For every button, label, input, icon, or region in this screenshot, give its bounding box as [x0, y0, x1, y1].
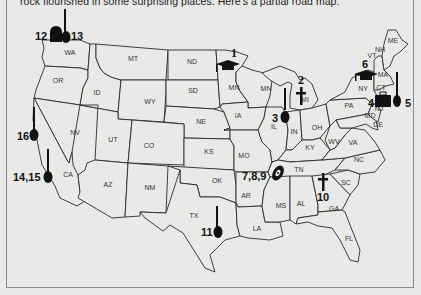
- state-label-wy: WY: [144, 98, 156, 105]
- state-label-md: MD: [365, 112, 376, 119]
- marker-7-8-9-label: 7,8,9: [242, 170, 266, 182]
- state-label-il: IL: [271, 123, 277, 130]
- state-label-nm: NM: [145, 184, 156, 191]
- marker-5-label: 5: [405, 97, 411, 109]
- state-label-ct: CT: [376, 84, 386, 91]
- marker-3[interactable]: 3: [272, 88, 290, 124]
- marker-12-label: 12: [35, 30, 47, 42]
- state-label-ky: KY: [305, 144, 315, 151]
- state-label-de: DE: [373, 121, 383, 128]
- state-label-wv: WV: [328, 138, 340, 145]
- state-label-tx: TX: [190, 212, 199, 219]
- state-label-tn: TN: [294, 166, 303, 173]
- state-label-pa: PA: [345, 102, 354, 109]
- state-label-ar: AR: [241, 192, 251, 199]
- state-label-sd: SD: [188, 87, 198, 94]
- marker-11-label: 11: [201, 226, 213, 238]
- state-label-nc: NC: [354, 156, 364, 163]
- marker-4-label: 4: [368, 97, 375, 109]
- marker-13[interactable]: 13: [62, 9, 84, 43]
- state-label-al: AL: [297, 200, 306, 207]
- state-label-nd: ND: [187, 58, 197, 65]
- state-label-fl: FL: [345, 235, 353, 242]
- state-label-ia: IA: [235, 112, 242, 119]
- state-label-mn: MN: [229, 84, 240, 91]
- marker-6-label: 6: [362, 58, 368, 70]
- guitar-icon: [62, 9, 71, 43]
- state-label-mo: MO: [238, 152, 250, 159]
- guitar-icon: [281, 88, 290, 123]
- state-label-ut: UT: [108, 136, 118, 143]
- marker-16-label: 16: [17, 130, 29, 142]
- state-label-mn: MN: [261, 85, 272, 92]
- state-label-mt: MT: [128, 55, 139, 62]
- state-label-ca: CA: [63, 171, 73, 178]
- marker-14-15-label: 14,15: [13, 171, 41, 183]
- state-label-ok: OK: [212, 177, 222, 184]
- marker-13-label: 13: [71, 30, 83, 42]
- state-label-wa: WA: [64, 49, 75, 56]
- state-label-in: IN: [291, 128, 298, 135]
- guitar-icon: [393, 72, 401, 107]
- us-map: WAORIDMTWYNDSDNENVUTCOKSCAAZNMOKTXMNMNIA…: [0, 0, 421, 295]
- briefcase-icon: [375, 92, 391, 107]
- state-label-nh: NH: [375, 46, 385, 53]
- state-label-or: OR: [53, 77, 64, 84]
- state-label-id: ID: [94, 89, 101, 96]
- state-label-vt: VT: [368, 52, 378, 59]
- marker-1-label: 1: [231, 46, 237, 60]
- state-label-ne: NE: [196, 118, 206, 125]
- state-label-oh: OH: [312, 124, 323, 131]
- state-label-ks: KS: [204, 148, 214, 155]
- state-label-ms: MS: [276, 202, 287, 209]
- state-label-me: ME: [388, 37, 399, 44]
- state-label-ma: MA: [378, 71, 389, 78]
- state-label-az: AZ: [104, 181, 114, 188]
- state-label-nv: NV: [70, 129, 80, 136]
- state-label-va: VA: [349, 139, 358, 146]
- tombstone-icon: [50, 26, 62, 42]
- marker-3-label: 3: [272, 112, 278, 124]
- state-label-sc: SC: [341, 179, 351, 186]
- marker-5[interactable]: 5: [393, 72, 411, 109]
- state-label-ga: GA: [329, 205, 339, 212]
- marker-2-label: 2: [298, 73, 304, 87]
- state-label-ny: NY: [358, 85, 368, 92]
- state-label-la: LA: [253, 225, 262, 232]
- state-label-co: CO: [144, 142, 155, 149]
- marker-10-label: 10: [317, 191, 329, 203]
